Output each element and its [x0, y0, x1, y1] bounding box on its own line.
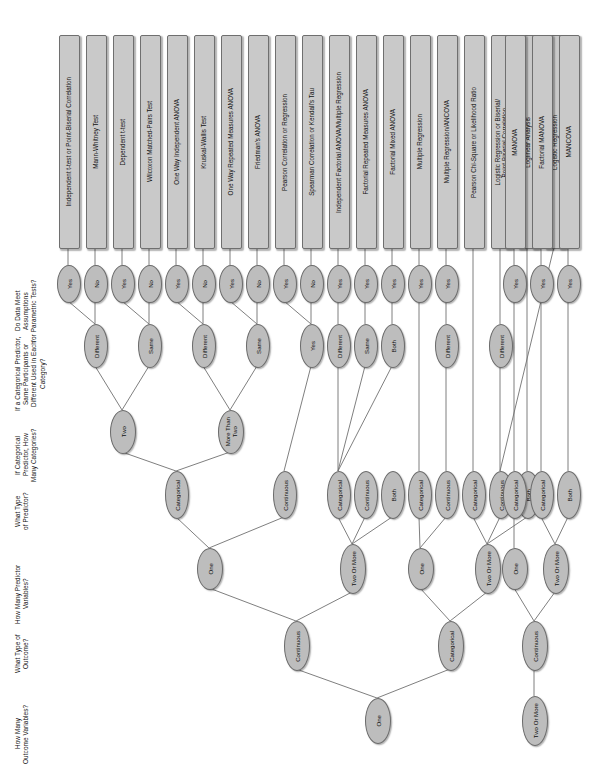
node-label: No: [93, 280, 100, 288]
edge-n-v5-to-n-o3: [514, 588, 534, 621]
edge-n-a1-to-n-d1: [68, 301, 95, 324]
node-n-d10[interactable]: Different: [489, 324, 513, 368]
test-box-t3[interactable]: Dependent t-test: [113, 35, 134, 249]
test-box-t4[interactable]: Wilcoxon Matched-Pairs Test: [140, 35, 161, 249]
node-n-a6[interactable]: No: [192, 265, 216, 303]
test-box-t11[interactable]: Independent Factorial ANOVA/Multiple Reg…: [329, 35, 350, 249]
test-box-label: Independent Factorial ANOVA/Multiple Reg…: [335, 72, 342, 213]
node-n-p13[interactable]: Both: [557, 471, 581, 519]
node-n-p4[interactable]: Continuous: [354, 471, 378, 519]
node-label: Two Or More: [485, 551, 492, 586]
test-box-t8[interactable]: Friedman's ANOVA: [248, 35, 269, 249]
node-label: No: [201, 280, 208, 288]
test-box-label: One Way Repeated Measures ANOVA: [227, 88, 234, 195]
node-n-a22[interactable]: Yes: [557, 265, 581, 303]
node-n-c2[interactable]: More Than Two: [218, 410, 244, 454]
node-label: Categorical: [417, 480, 424, 511]
node-n-a10[interactable]: No: [300, 265, 324, 303]
node-n-a1[interactable]: Yes: [57, 265, 81, 303]
node-n-a15[interactable]: Yes: [435, 265, 459, 303]
test-box-t20[interactable]: MANOVA: [505, 35, 526, 249]
edge-n-d1-to-n-c1: [95, 366, 122, 410]
test-box-t15[interactable]: Multiple Regression/ANCOVA: [437, 35, 458, 249]
node-label: Categorical: [174, 480, 181, 511]
node-n-a7[interactable]: Yes: [219, 265, 243, 303]
node-label: Categorical: [336, 480, 343, 511]
test-box-t16[interactable]: Pearson Chi-Square or Likelihood Ratio: [464, 35, 485, 249]
node-n-p6[interactable]: Categorical: [408, 471, 432, 519]
node-n-d7[interactable]: Same: [354, 324, 378, 368]
node-n-p5[interactable]: Both: [381, 471, 405, 519]
node-n-a2[interactable]: No: [84, 265, 108, 303]
test-box-t10[interactable]: Spearman Correlation or Kendall's Tau: [302, 35, 323, 249]
node-n-d5[interactable]: Yes: [300, 324, 324, 368]
node-n-p7[interactable]: Continuous: [435, 471, 459, 519]
node-n-a14[interactable]: Yes: [408, 265, 432, 303]
node-n-v5[interactable]: One: [502, 548, 528, 590]
node-n-a9[interactable]: Yes: [273, 265, 297, 303]
node-n-d9[interactable]: Different: [435, 324, 459, 368]
edge-n-p1-to-n-v1: [176, 517, 209, 548]
node-n-a5[interactable]: Yes: [165, 265, 189, 303]
edge-n-p13-to-n-v6: [555, 517, 568, 544]
node-label: Categorical: [512, 480, 519, 511]
test-box-t12[interactable]: Factorial Repeated Measures ANOVA: [356, 35, 377, 249]
test-box-label: Pearson Chi-Square or Likelihood Ratio: [470, 87, 477, 198]
node-n-d2[interactable]: Same: [138, 324, 162, 368]
node-n-d3[interactable]: Different: [192, 324, 216, 368]
test-box-t2[interactable]: Mann-Whitney Test: [86, 35, 107, 249]
node-n-v3[interactable]: One: [408, 548, 434, 590]
edge-n-p8-to-n-v4: [473, 517, 487, 544]
node-n-d1[interactable]: Different: [84, 324, 108, 368]
node-label: Two Or More: [553, 551, 560, 586]
node-n-p12[interactable]: Categorical: [530, 471, 554, 519]
test-box-t5[interactable]: One Way Independent ANOVA: [167, 35, 188, 249]
edge-n-p10-to-n-v4: [487, 517, 527, 544]
node-n-a4[interactable]: No: [138, 265, 162, 303]
node-n-a20[interactable]: Yes: [503, 265, 527, 303]
test-box-t6[interactable]: Kruskal-Wallis Test: [194, 35, 215, 249]
node-n-a11[interactable]: Yes: [327, 265, 351, 303]
node-label: No: [255, 280, 262, 288]
node-label: Yes: [390, 279, 397, 289]
test-box-t13[interactable]: Factorial Mixed ANOVA: [383, 35, 404, 249]
node-n-p3[interactable]: Categorical: [327, 471, 351, 519]
node-label: Yes: [120, 279, 127, 289]
node-n-v1[interactable]: One: [197, 548, 223, 590]
node-n-o1[interactable]: Continuous: [284, 621, 310, 671]
test-box-t9[interactable]: Pearson Correlation or Regression: [275, 35, 296, 249]
node-n-a21[interactable]: Yes: [530, 265, 554, 303]
node-n-s2[interactable]: Two Or More: [522, 696, 548, 746]
edge-n-c2-to-n-p1: [176, 452, 230, 471]
node-n-a12[interactable]: Yes: [354, 265, 378, 303]
test-box-t21[interactable]: Factorial MANOVA: [532, 35, 553, 249]
test-box-t22[interactable]: MANCOVA: [559, 35, 580, 249]
test-box-label: Pearson Correlation or Regression: [281, 94, 288, 191]
test-box-label: Friedman's ANOVA: [254, 115, 261, 169]
node-label: Yes: [174, 279, 181, 289]
edge-n-p5-to-n-v2: [352, 517, 392, 544]
node-n-s1[interactable]: One: [365, 698, 391, 744]
node-n-p1[interactable]: Categorical: [165, 471, 189, 519]
node-n-v4[interactable]: Two Or More: [475, 544, 501, 594]
test-box-t1[interactable]: Independent t-test or Point-Biserial Cor…: [59, 35, 80, 249]
edge-n-a7-to-n-d4: [230, 301, 257, 324]
test-box-t7[interactable]: One Way Repeated Measures ANOVA: [221, 35, 242, 249]
node-n-d4[interactable]: Same: [246, 324, 270, 368]
node-n-a8[interactable]: No: [246, 265, 270, 303]
node-n-v2[interactable]: Two Or More: [340, 544, 366, 594]
edge-n-v6-to-n-o3: [534, 592, 555, 621]
node-n-d6[interactable]: Different: [327, 324, 351, 368]
node-n-a3[interactable]: Yes: [111, 265, 135, 303]
test-box-t14[interactable]: Multiple Regression: [410, 35, 431, 249]
node-n-p11[interactable]: Categorical: [503, 471, 527, 519]
node-n-p2[interactable]: Continuous: [273, 471, 297, 519]
node-label: Different: [336, 335, 343, 358]
node-n-d8[interactable]: Both: [381, 324, 405, 368]
node-n-p8[interactable]: Categorical: [462, 471, 486, 519]
node-n-v6[interactable]: Two Or More: [543, 544, 569, 594]
node-n-o2[interactable]: Categorical: [438, 621, 464, 671]
node-n-c1[interactable]: Two: [110, 410, 136, 454]
node-n-o3[interactable]: Continuous: [522, 621, 548, 671]
node-n-a13[interactable]: Yes: [381, 265, 405, 303]
